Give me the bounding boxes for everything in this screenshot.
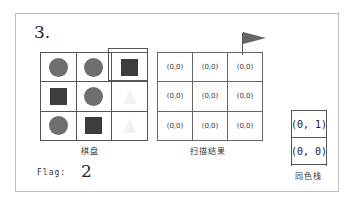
- scan-cell: (0,0): [193, 53, 228, 82]
- scan-result-grid: (0,0) (0,0) (0,0) (0,0) (0,0) (0,0) (0,0…: [157, 52, 263, 141]
- scan-cell: (0,0): [228, 112, 263, 141]
- square-piece-icon: [50, 88, 67, 105]
- flag-value: 2: [81, 161, 92, 181]
- flag-icon: [243, 32, 266, 44]
- triangle-ghost-icon: [123, 89, 137, 104]
- scan-cell: (0,0): [228, 82, 263, 111]
- scan-result-caption: 扫描结果: [190, 145, 226, 156]
- circle-piece-icon: [49, 58, 68, 77]
- board-cell: [112, 82, 148, 111]
- scan-cell: (0,0): [158, 82, 193, 111]
- board-cell: [41, 53, 77, 82]
- same-color-stack: (0, 1) (0, 0): [291, 110, 327, 166]
- stack-item: (0, 1): [292, 111, 326, 138]
- board-cell: [77, 82, 113, 111]
- stack-item: (0, 0): [292, 138, 326, 165]
- board-cell: [41, 112, 77, 141]
- circle-piece-icon: [84, 58, 103, 77]
- board-cell: [112, 112, 148, 141]
- scan-cell: (0,0): [193, 112, 228, 141]
- board-cell: [41, 82, 77, 111]
- square-piece-icon: [85, 117, 102, 134]
- board-cell: [77, 112, 113, 141]
- board-cell: [77, 53, 113, 82]
- stack-caption: 同色栈: [295, 170, 322, 181]
- flag-label: Flag:: [37, 168, 66, 177]
- board-caption: 棋盘: [81, 145, 99, 156]
- scan-cell: (0,0): [193, 82, 228, 111]
- scan-cell: (0,0): [158, 53, 193, 82]
- scan-cell: (0,0): [228, 53, 263, 82]
- current-cell-highlight: [108, 48, 148, 81]
- triangle-ghost-icon: [123, 118, 137, 133]
- circle-piece-icon: [84, 87, 103, 106]
- circle-piece-icon: [49, 116, 68, 135]
- scan-cell: (0,0): [158, 112, 193, 141]
- step-label: 3.: [34, 22, 50, 42]
